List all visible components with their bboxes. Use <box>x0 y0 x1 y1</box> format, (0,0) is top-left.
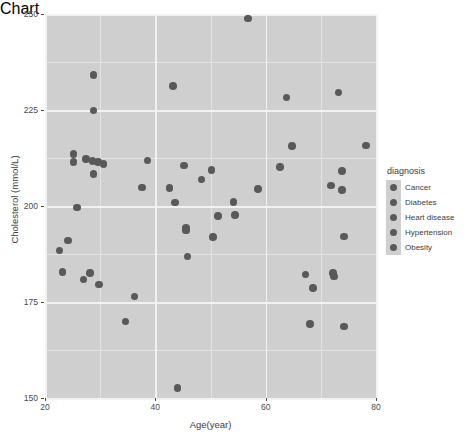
y-axis-tick-mark <box>41 110 44 111</box>
legend-item[interactable]: Heart disease <box>386 210 470 225</box>
data-point <box>309 284 317 292</box>
y-axis-label: Cholesterol (mmol/L) <box>9 110 20 290</box>
legend-key-swatch <box>386 210 401 225</box>
gridline-major-horizontal <box>45 14 376 16</box>
legend-key-swatch <box>386 180 401 195</box>
y-axis-tick-label: 175 <box>24 298 38 307</box>
legend-key-swatch <box>386 240 401 255</box>
legend-entries: CancerDiabetesHeart diseaseHypertensionO… <box>386 180 470 255</box>
data-point <box>90 107 98 115</box>
data-point <box>335 89 343 97</box>
data-point <box>70 158 78 166</box>
gridline-major-vertical <box>155 14 157 398</box>
legend: diagnosis CancerDiabetesHeart diseaseHyp… <box>386 166 470 255</box>
data-point <box>283 94 291 102</box>
y-axis-tick-label: 225 <box>24 106 38 115</box>
data-point <box>138 184 146 192</box>
data-point <box>327 182 335 190</box>
legend-title: diagnosis <box>386 166 470 176</box>
y-axis-tick-mark <box>41 206 44 207</box>
legend-item[interactable]: Hypertension <box>386 225 470 240</box>
data-point <box>254 185 262 193</box>
data-point <box>95 281 103 289</box>
data-point <box>174 384 182 392</box>
legend-item[interactable]: Cancer <box>386 180 470 195</box>
gridline-major-horizontal <box>45 398 376 400</box>
data-point <box>73 204 81 212</box>
data-point <box>100 160 108 168</box>
data-point <box>80 276 88 284</box>
gridline-major-vertical <box>45 14 47 398</box>
data-point <box>70 150 78 158</box>
data-point <box>244 15 252 23</box>
data-point <box>198 176 206 184</box>
data-point <box>182 227 190 235</box>
data-point <box>340 233 348 241</box>
x-axis-tick-label: 60 <box>246 403 286 412</box>
x-axis-tick-mark <box>376 398 377 401</box>
data-point <box>288 142 296 150</box>
legend-item[interactable]: Obesity <box>386 240 470 255</box>
plot-panel <box>45 14 376 398</box>
data-point <box>90 170 98 178</box>
legend-item-label: Obesity <box>405 243 432 252</box>
data-point <box>302 271 310 279</box>
y-axis-tick-mark <box>41 398 44 399</box>
data-point <box>184 253 192 261</box>
gridline-major-horizontal <box>45 302 376 304</box>
legend-key-swatch <box>386 225 401 240</box>
data-point <box>144 157 152 165</box>
data-point <box>180 162 188 170</box>
data-point <box>122 318 130 326</box>
y-axis-tick-label: 200 <box>24 202 38 211</box>
y-axis-tick-mark <box>41 302 44 303</box>
x-axis-tick-mark <box>155 398 156 401</box>
data-point <box>231 211 239 219</box>
x-axis-tick-label: 20 <box>25 403 65 412</box>
data-point <box>166 184 174 192</box>
x-axis-tick-label: 40 <box>135 403 175 412</box>
gridline-major-horizontal <box>45 206 376 208</box>
data-point <box>209 233 217 241</box>
y-axis-tick-label: 250 <box>24 10 38 19</box>
y-axis-tick-label: 150 <box>24 394 38 403</box>
data-point <box>338 167 346 175</box>
data-point <box>338 186 346 194</box>
gridline-major-vertical <box>266 14 268 398</box>
x-axis-label: Age(year) <box>45 419 376 430</box>
data-point <box>59 268 67 276</box>
y-axis-tick-mark <box>41 14 44 15</box>
data-point <box>230 198 238 206</box>
x-axis-tick-mark <box>45 398 46 401</box>
data-point <box>169 82 177 90</box>
legend-item-label: Cancer <box>405 183 431 192</box>
data-point <box>90 71 98 79</box>
gridline-major-vertical <box>376 14 378 398</box>
x-axis-tick-mark <box>266 398 267 401</box>
data-point <box>208 166 216 174</box>
data-point <box>131 293 139 301</box>
data-point <box>330 273 338 281</box>
legend-item-label: Heart disease <box>405 213 454 222</box>
data-point <box>306 320 314 328</box>
legend-item-label: Hypertension <box>405 228 452 237</box>
data-point <box>214 212 222 220</box>
legend-item[interactable]: Diabetes <box>386 195 470 210</box>
x-axis-tick-label: 80 <box>356 403 396 412</box>
legend-key-swatch <box>386 195 401 210</box>
scatter-plot: 15017520022525020406080 Age(year) Choles… <box>0 0 470 448</box>
data-point <box>64 237 72 245</box>
data-point <box>362 142 370 150</box>
data-point <box>340 323 348 331</box>
data-point <box>86 269 94 277</box>
legend-item-label: Diabetes <box>405 198 437 207</box>
data-point <box>276 163 284 171</box>
